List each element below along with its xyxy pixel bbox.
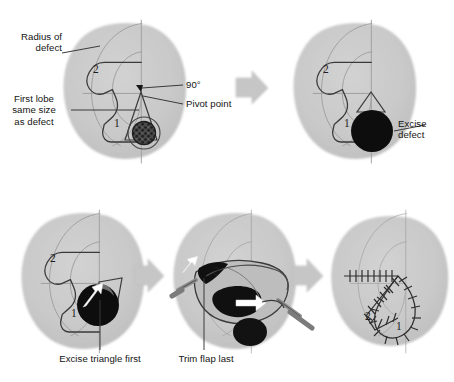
distal-defect xyxy=(233,318,267,346)
panel-4-trim-flap: 2 xyxy=(172,210,312,354)
panel-1-design: 2 1 xyxy=(62,20,186,164)
excised-defect-circle xyxy=(351,110,393,152)
lobe-marker-1: 1 xyxy=(71,307,77,319)
lobe-marker-2: 2 xyxy=(323,63,329,75)
lobe-marker-1: 1 xyxy=(344,117,350,129)
lobe-marker-2: 2 xyxy=(213,265,219,277)
label-radius-of-defect: Radius of defect xyxy=(0,31,62,54)
label-first-lobe-same-size: First lobe same size as defect xyxy=(0,93,68,127)
lobe-marker-1: 1 xyxy=(114,117,120,129)
label-trim-flap-last: Trim flap last xyxy=(160,353,252,364)
lobe-marker-2: 2 xyxy=(93,63,99,75)
panel-5-closure: 2 1 xyxy=(331,210,448,354)
label-pivot-point: Pivot point xyxy=(186,98,266,109)
lobe-marker-2: 2 xyxy=(365,310,371,322)
panel-2-excise-defect: 2 1 xyxy=(294,20,426,164)
label-excise-defect: Excise defect xyxy=(398,118,454,141)
label-90-degrees: 90° xyxy=(186,79,226,90)
lobe-marker-1: 1 xyxy=(396,320,402,332)
panel-3-excise-triangle: 2 1 xyxy=(22,210,145,354)
arrow-3 xyxy=(293,259,323,292)
surgical-illustration: 2 1 2 1 xyxy=(0,0,454,382)
lobe-marker-2: 2 xyxy=(50,252,56,264)
figure-canvas: 2 1 2 1 xyxy=(0,0,454,382)
label-excise-triangle-first: Excise triangle first xyxy=(32,353,168,364)
